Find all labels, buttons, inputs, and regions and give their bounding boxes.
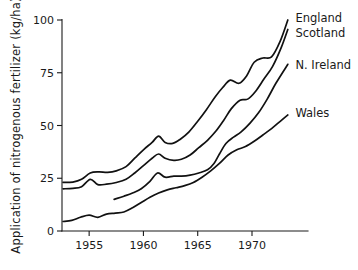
series-label-england: England [295,11,342,25]
series-line-scotland [63,30,288,189]
y-tick-label-75: 75 [40,67,54,80]
series-line-n-ireland [114,64,288,199]
series-label-scotland: Scotland [295,26,345,40]
x-tick-label-1970: 1970 [238,239,266,252]
y-tick-label-0: 0 [47,225,54,238]
y-tick-label-50: 50 [40,120,54,133]
y-tick-label-25: 25 [40,172,54,185]
series-line-wales [63,115,288,222]
x-tick-label-1960: 1960 [129,239,157,252]
x-tick-label-1965: 1965 [184,239,212,252]
line-chart-svg: 02550751001955196019651970Application of… [0,0,358,270]
series-label-wales: Wales [295,106,329,120]
series-line-england [63,20,288,182]
series-label-n-ireland: N. Ireland [295,58,351,72]
y-axis-label: Application of nitrogenous fertilizer (k… [9,0,23,254]
x-tick-label-1955: 1955 [75,239,103,252]
chart-figure: 02550751001955196019651970Application of… [0,0,358,270]
y-tick-label-100: 100 [33,14,54,27]
